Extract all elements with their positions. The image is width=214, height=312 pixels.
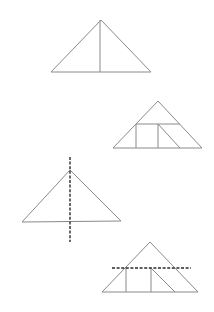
triangle-outline (22, 170, 121, 222)
crease-line (158, 124, 180, 148)
triangle-1 (51, 20, 151, 72)
triangle-3 (22, 157, 121, 242)
triangle-4 (102, 242, 198, 292)
triangle-outline (51, 20, 151, 72)
crease-line (151, 268, 175, 292)
triangle-2 (113, 101, 202, 148)
triangle-outline (102, 242, 198, 292)
diagram-canvas (0, 0, 214, 312)
